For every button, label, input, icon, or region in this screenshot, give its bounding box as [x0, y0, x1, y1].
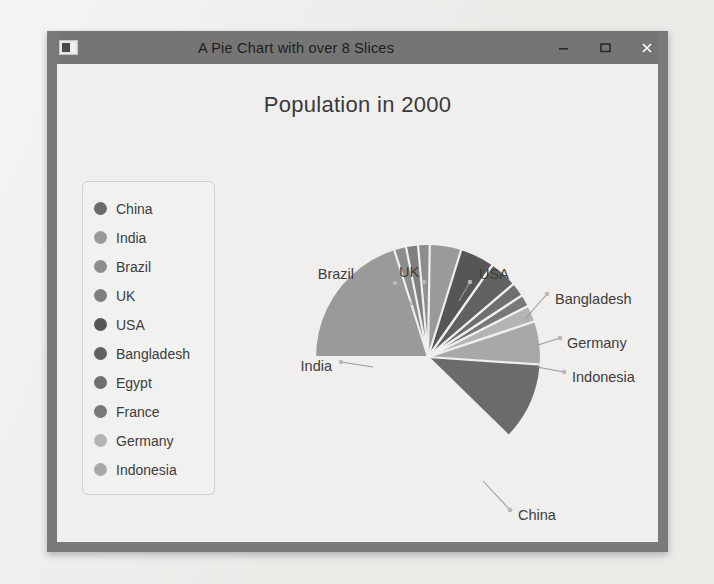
- leader-dot-icon: [562, 370, 567, 375]
- legend-item-label: Egypt: [116, 375, 152, 391]
- legend-swatch-icon: [94, 318, 107, 331]
- legend-item-label: India: [116, 230, 146, 246]
- leader-line-india: [341, 362, 373, 367]
- legend-swatch-icon: [94, 231, 107, 244]
- pie-label-usa: USA: [479, 266, 509, 282]
- legend-item-france[interactable]: France: [83, 397, 214, 426]
- leader-line-germany: [538, 338, 560, 345]
- legend-item-label: UK: [116, 288, 135, 304]
- legend-item-uk[interactable]: UK: [83, 281, 214, 310]
- legend-item-label: Bangladesh: [116, 346, 190, 362]
- pie-label-brazil: Brazil: [318, 266, 354, 282]
- legend-swatch-icon: [94, 376, 107, 389]
- leader-dot-icon: [468, 280, 473, 285]
- legend-item-indonesia[interactable]: Indonesia: [83, 455, 214, 484]
- leader-dot-icon: [339, 360, 344, 365]
- chart-title: Population in 2000: [57, 92, 658, 118]
- leader-dot-icon: [422, 280, 427, 285]
- pie-label-germany: Germany: [567, 335, 627, 351]
- leader-dot-icon: [558, 336, 563, 341]
- legend-swatch-icon: [94, 434, 107, 447]
- leader-line-china: [483, 481, 510, 510]
- pie-label-china: China: [518, 507, 557, 523]
- legend-item-india[interactable]: India: [83, 223, 214, 252]
- window-client-area: Population in 2000 ChinaIndiaBrazilUKUSA…: [57, 64, 658, 542]
- legend-item-brazil[interactable]: Brazil: [83, 252, 214, 281]
- pie-label-indonesia: Indonesia: [572, 369, 636, 385]
- legend-item-usa[interactable]: USA: [83, 310, 214, 339]
- legend-swatch-icon: [94, 463, 107, 476]
- legend-item-label: Germany: [116, 433, 174, 449]
- pie-label-bangladesh: Bangladesh: [555, 291, 632, 307]
- legend-swatch-icon: [94, 202, 107, 215]
- legend-item-egypt[interactable]: Egypt: [83, 368, 214, 397]
- leader-dot-icon: [508, 508, 513, 513]
- pie-chart-svg: BrazilUKUSABangladeshGermanyIndonesiaInd…: [227, 159, 647, 542]
- legend-swatch-icon: [94, 260, 107, 273]
- pie-label-india: India: [301, 358, 333, 374]
- application-window: A Pie Chart with over 8 Slices Populatio…: [47, 31, 668, 552]
- legend-item-label: France: [116, 404, 160, 420]
- leader-dot-icon: [545, 292, 550, 297]
- legend-item-china[interactable]: China: [83, 194, 214, 223]
- chart-legend: ChinaIndiaBrazilUKUSABangladeshEgyptFran…: [82, 181, 215, 495]
- legend-swatch-icon: [94, 405, 107, 418]
- pie-label-uk: UK: [399, 264, 419, 280]
- legend-swatch-icon: [94, 347, 107, 360]
- legend-item-label: Brazil: [116, 259, 151, 275]
- legend-item-label: Indonesia: [116, 462, 177, 478]
- legend-item-label: China: [116, 201, 153, 217]
- pie-chart-area: BrazilUKUSABangladeshGermanyIndonesiaInd…: [227, 159, 647, 542]
- leader-dot-icon: [393, 281, 398, 286]
- legend-item-germany[interactable]: Germany: [83, 426, 214, 455]
- legend-item-label: USA: [116, 317, 145, 333]
- legend-swatch-icon: [94, 289, 107, 302]
- legend-item-bangladesh[interactable]: Bangladesh: [83, 339, 214, 368]
